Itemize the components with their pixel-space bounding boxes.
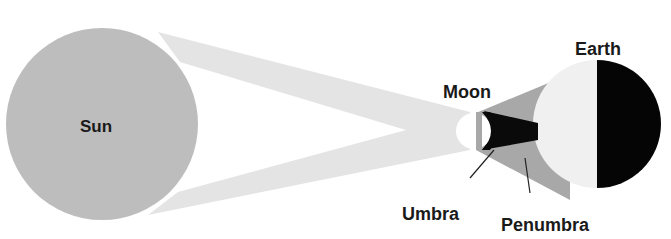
umbra-leader-line bbox=[470, 150, 494, 178]
moon-shadow-edge bbox=[476, 112, 482, 150]
moon-circle bbox=[456, 113, 492, 149]
penumbra-label: Penumbra bbox=[501, 216, 589, 234]
earth-label: Earth bbox=[575, 40, 621, 58]
eclipse-diagram: Sun Moon Earth Umbra Penumbra bbox=[0, 0, 671, 239]
earth-night-half bbox=[597, 60, 661, 188]
moon-label: Moon bbox=[443, 83, 491, 101]
sun-label: Sun bbox=[80, 118, 112, 135]
umbra-label: Umbra bbox=[402, 205, 459, 223]
